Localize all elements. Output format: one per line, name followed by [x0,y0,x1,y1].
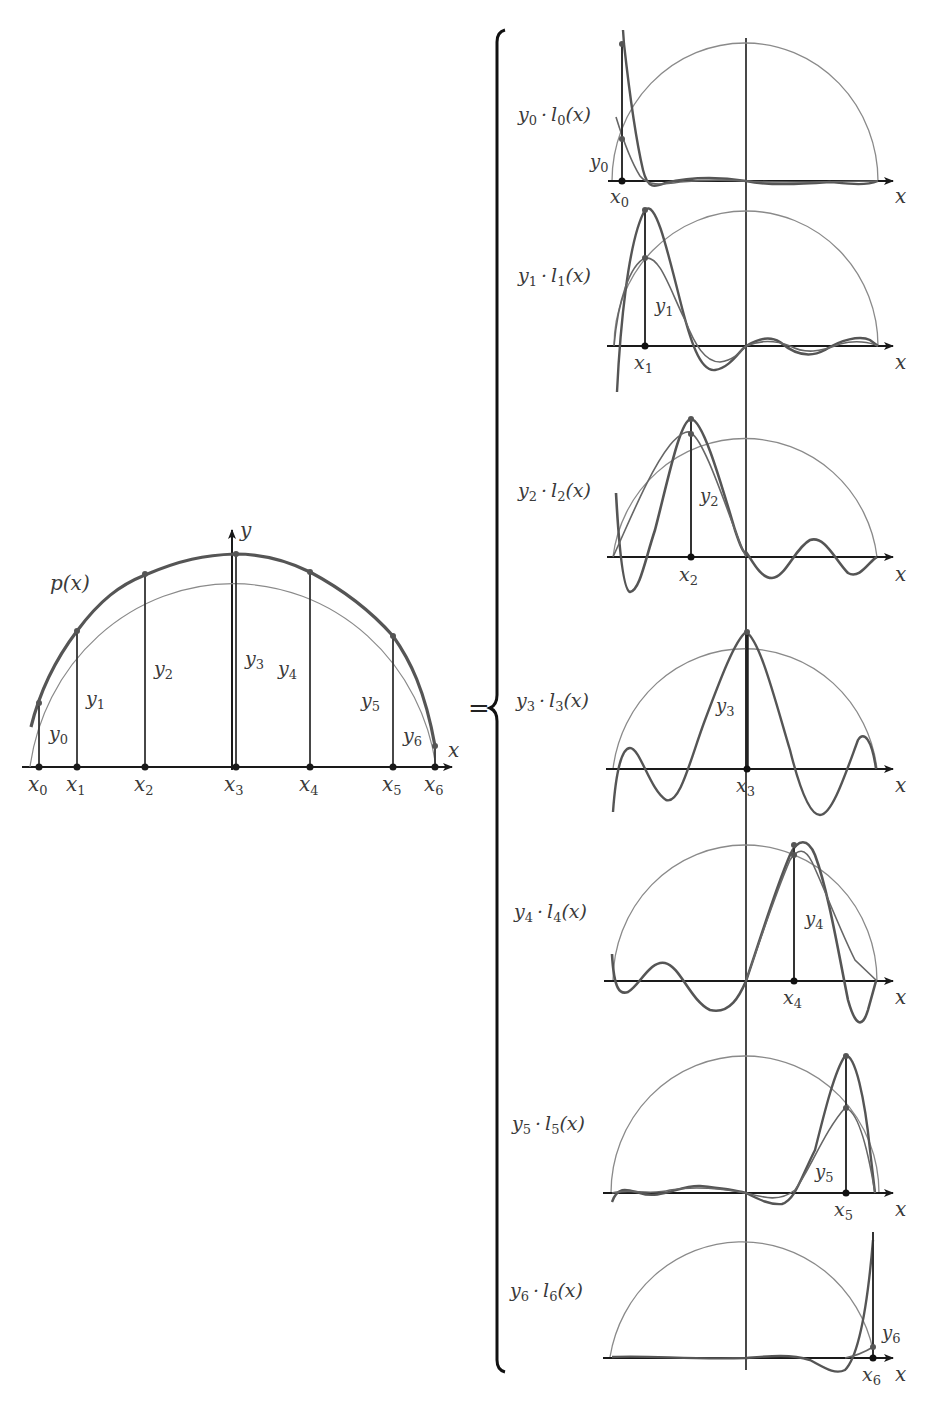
svg-text:y4: y4 [804,908,823,932]
svg-text:y1: y1 [85,687,105,712]
svg-text:y0·l0(x): y0·l0(x) [517,103,591,128]
svg-text:x: x [895,350,906,374]
svg-text:x4: x4 [783,986,802,1011]
svg-text:x1: x1 [634,351,653,376]
basis-curve [612,1240,873,1372]
svg-text:x: x [895,1197,906,1221]
scaled-curve [613,432,746,557]
svg-text:y0: y0 [589,151,608,175]
node-ordinates [39,554,435,767]
svg-text:x4: x4 [299,772,319,798]
svg-text:y0: y0 [48,722,68,747]
svg-text:x1: x1 [66,772,86,798]
svg-text:y3·l3(x): y3·l3(x) [515,689,589,714]
panel-6: y6·l6(x) y6 x6 x [509,1232,906,1388]
svg-text:y6·l6(x): y6·l6(x) [509,1279,583,1304]
svg-text:y4·l4(x): y4·l4(x) [513,900,587,925]
panel-4: y4·l4(x) y4 x4 x [513,842,906,1022]
svg-text:y1·l1(x): y1·l1(x) [517,264,591,289]
svg-text:x: x [895,1362,906,1386]
semicircle [611,1056,879,1193]
left-brace [490,30,505,1372]
x-node-labels: x0 x1 x2 x3 x4 x5 x6 [28,772,444,798]
svg-text:y3: y3 [244,647,264,672]
svg-text:y2·l2(x): y2·l2(x) [517,479,591,504]
svg-text:x5: x5 [834,1198,853,1223]
svg-text:y3: y3 [715,695,734,719]
svg-text:x6: x6 [424,772,444,798]
svg-text:x6: x6 [862,1363,881,1388]
svg-text:y2: y2 [153,657,173,682]
svg-text:x0: x0 [28,772,48,798]
svg-text:y4: y4 [277,657,297,682]
y-axis-label: y [239,518,252,542]
x-axis-label: x [448,738,459,762]
left-plot: p(x) x y x0 x1 x2 x3 x4 x5 x6 y0 y1 y2 y… [22,518,459,798]
panel-2: y2·l2(x) y2 x2 x [517,416,906,592]
svg-text:x5: x5 [382,772,402,798]
svg-text:x2: x2 [679,563,698,588]
svg-text:y5·l5(x): y5·l5(x) [511,1112,585,1137]
panel-3: y3·l3(x) y3 x3 x [515,629,906,815]
svg-text:x2: x2 [134,772,154,798]
semicircle [612,43,878,181]
basis-curve [623,30,878,186]
svg-text:y6: y6 [881,1322,900,1346]
svg-text:x: x [895,985,906,1009]
p-label: p(x) [50,571,90,595]
semicircle [610,1242,873,1357]
svg-text:y2: y2 [699,485,718,509]
svg-text:x3: x3 [224,772,244,798]
svg-text:x0: x0 [610,185,629,210]
scaled-curve [616,117,878,184]
svg-text:y5: y5 [814,1161,833,1185]
basis-curve [612,1056,875,1204]
svg-text:y1: y1 [654,295,673,319]
y-node-labels: y0 y1 y2 y3 y4 y5 y6 [48,647,422,749]
basis-curve [612,842,876,1022]
panel-1: y1·l1(x) y1 x1 x [517,207,906,392]
semicircle [613,845,877,981]
svg-text:y5: y5 [360,689,380,714]
svg-text:x: x [895,562,906,586]
panel-5: y5·l5(x) y5 x5 x [511,1053,906,1223]
lagrange-diagram: p(x) x y x0 x1 x2 x3 x4 x5 x6 y0 y1 y2 y… [0,0,934,1414]
svg-text:x: x [895,773,906,797]
svg-text:x: x [895,184,906,208]
scaled-curve [612,1108,875,1198]
semicircle [613,649,877,769]
svg-text:y6: y6 [402,724,422,749]
svg-text:x3: x3 [736,774,755,799]
panel-0: y0·l0(x) y0 x0 x [517,30,906,210]
